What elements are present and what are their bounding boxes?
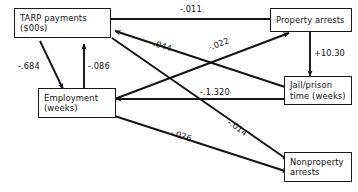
node-property-arrests-line1: Property arrests bbox=[276, 15, 347, 26]
edge-label-jail-to-employment: -.1.320 bbox=[200, 88, 230, 97]
path-diagram: TARP payments ($00s) Employment (weeks) … bbox=[0, 0, 358, 192]
node-employment-line1: Employment bbox=[44, 93, 111, 104]
edge-label-tarp-to-property: -.011 bbox=[180, 5, 202, 14]
node-employment-line2: (weeks) bbox=[44, 103, 111, 114]
node-tarp-payments[interactable]: TARP payments ($00s) bbox=[14, 8, 111, 38]
node-tarp-payments-line2: ($00s) bbox=[20, 23, 106, 34]
node-nonproperty-arrests-line1: Nonproperty bbox=[290, 157, 347, 168]
edge-tarp-to-employment bbox=[40, 41, 63, 89]
node-jail-prison-time-line1: Jail/prison bbox=[290, 80, 347, 91]
node-employment[interactable]: Employment (weeks) bbox=[38, 88, 116, 118]
node-property-arrests[interactable]: Property arrests bbox=[270, 8, 352, 32]
edge-label-employment-to-tarp: -.086 bbox=[88, 62, 110, 71]
node-nonproperty-arrests[interactable]: Nonproperty arrests bbox=[284, 152, 352, 182]
node-jail-prison-time[interactable]: Jail/prison time (weeks) bbox=[284, 76, 352, 105]
edge-label-property-to-jail: +10.30 bbox=[314, 49, 345, 58]
edge-jail-to-tarp bbox=[115, 31, 288, 88]
node-nonproperty-arrests-line2: arrests bbox=[290, 167, 347, 178]
node-tarp-payments-line1: TARP payments bbox=[20, 13, 106, 24]
edge-label-tarp-to-employment: -.684 bbox=[18, 62, 40, 71]
node-jail-prison-time-line2: time (weeks) bbox=[290, 91, 347, 102]
